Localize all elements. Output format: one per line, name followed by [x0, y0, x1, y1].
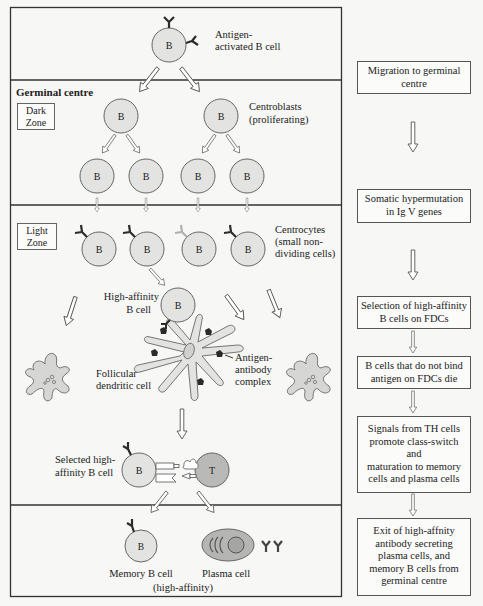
- step-text: Migration to germinal: [361, 65, 467, 78]
- germinal-centre-label: Germinal centre: [16, 86, 93, 98]
- centrocyte-cell: B: [123, 225, 164, 266]
- high-affinity-caption: (high-affinity): [153, 582, 213, 594]
- co-stimulatory-receptor-icon: [156, 463, 179, 482]
- selected-caption-1: Selected high-: [55, 454, 116, 465]
- light-zone-label-2: Zone: [27, 237, 48, 248]
- arrow-icon: [199, 133, 218, 155]
- dividing-b-cell: B: [129, 159, 163, 193]
- svg-text:B: B: [196, 244, 203, 255]
- step-arrow-icon: [408, 250, 418, 280]
- step-arrow-icon: [409, 391, 416, 413]
- step-text: in Ig V genes: [361, 206, 467, 219]
- arrow-icon: [224, 133, 243, 155]
- step-box-somatic-hypermutation: Somatic hypermutation in Ig V genes: [357, 189, 471, 223]
- selected-caption-2: affinity B cell: [55, 467, 113, 478]
- antibody-icon: [123, 225, 135, 237]
- plasma-cell: [202, 529, 254, 561]
- centrocyte-caption-1: Centrocytes: [275, 224, 325, 235]
- step-text: germinal centre: [361, 575, 467, 588]
- step-arrow-icon: [408, 122, 418, 152]
- fdc-caption-2: dendritic cell: [96, 380, 151, 391]
- svg-text:B: B: [118, 111, 125, 122]
- germinal-centre-diagram: B Antigen- activated B cell Germinal cen…: [0, 0, 483, 606]
- arrow-icon: [177, 409, 187, 439]
- step-text: B cells on FDCs: [361, 313, 467, 326]
- centrocyte-cell: B: [175, 225, 216, 266]
- arrow-icon: [264, 288, 285, 320]
- step-text: plasma cells, and: [361, 550, 467, 563]
- svg-text:B: B: [245, 244, 252, 255]
- centroblast-caption-2: (proliferating): [249, 114, 309, 126]
- step-text: Exit of high-affnity: [361, 525, 467, 538]
- step-box-migration: Migration to germinal centre: [357, 61, 471, 94]
- step-arrow-icon: [409, 331, 416, 353]
- high-affinity-caption-1: High-affinity: [104, 291, 160, 302]
- arrow-icon: [61, 295, 80, 327]
- antibody-icon: [164, 17, 174, 28]
- step-text: cells and plasma cells: [361, 473, 467, 486]
- step-text: maturation to memory: [361, 461, 467, 474]
- antibody-icon: [186, 36, 198, 45]
- apoptotic-cell-left: [26, 353, 70, 401]
- arrow-icon: [222, 292, 248, 322]
- antigen-activated-caption-2: activated B cell: [215, 41, 280, 52]
- centrocyte-cell: B: [224, 225, 265, 266]
- step-text: B cells that do not bind: [361, 360, 467, 373]
- centrocyte-caption-3: dividing cells): [275, 248, 336, 260]
- complex-caption-1: Antigen-: [235, 352, 273, 363]
- svg-text:B: B: [144, 244, 151, 255]
- complex-caption-2: antibody: [235, 364, 272, 375]
- secreted-antibodies-icon: [262, 541, 282, 552]
- complex-caption-3: complex: [235, 376, 272, 387]
- antigen-activated-caption-1: Antigen-: [215, 29, 253, 40]
- dividing-b-cell: B: [181, 159, 215, 193]
- antibody-icon: [127, 519, 134, 532]
- plasma-cell-caption: Plasma cell: [202, 568, 250, 579]
- t-helper-cell: T: [182, 453, 229, 487]
- dark-zone-label-1: Dark: [26, 105, 46, 116]
- cytokine-icon: [182, 459, 198, 479]
- svg-text:B: B: [244, 171, 251, 182]
- svg-text:B: B: [143, 171, 150, 182]
- centrocyte-cell: B: [75, 225, 116, 266]
- step-text: promote class-switch and: [361, 436, 467, 461]
- svg-text:B: B: [96, 244, 103, 255]
- dividing-b-cell: B: [230, 159, 264, 193]
- antibody-icon: [75, 225, 87, 237]
- step-text: antigen on FDCs die: [361, 373, 467, 386]
- svg-text:B: B: [94, 171, 101, 182]
- centrocyte-caption-2: (small non-: [275, 236, 324, 248]
- high-affinity-caption-2: B cell: [126, 304, 151, 315]
- arrow-icon: [148, 489, 171, 515]
- high-affinity-b-cell: B: [161, 288, 195, 329]
- centroblast-cell: B: [204, 99, 238, 133]
- memory-b-cell: B: [125, 519, 157, 562]
- step-text: Selection of high-affinity: [361, 300, 467, 313]
- dividing-b-cell: B: [80, 159, 114, 193]
- step-box-selection: Selection of high-affinity B cells on FD…: [357, 296, 471, 329]
- svg-text:B: B: [195, 171, 202, 182]
- svg-text:B: B: [218, 111, 225, 122]
- step-text: antibody secreting: [361, 538, 467, 551]
- step-box-cell-death: B cells that do not bind antigen on FDCs…: [357, 356, 471, 389]
- antibody-icon: [123, 442, 131, 455]
- step-box-exit: Exit of high-affnity antibody secreting …: [357, 518, 471, 596]
- memory-b-cell-caption: Memory B cell: [109, 568, 173, 579]
- step-text: centre: [361, 78, 467, 91]
- svg-text:B: B: [138, 542, 144, 552]
- step-arrow-icon: [409, 494, 416, 516]
- centroblast-cell: B: [104, 99, 138, 133]
- apoptotic-cell-right: [287, 353, 331, 401]
- antibody-light-icon: [175, 225, 187, 237]
- svg-text:B: B: [136, 465, 143, 476]
- selected-b-cell: B: [122, 442, 179, 487]
- arrow-icon: [147, 267, 167, 288]
- antigen-activated-b-cell: B: [152, 17, 198, 62]
- centroblast-caption-1: Centroblasts: [249, 101, 302, 112]
- step-text: Signals from TH cells: [361, 423, 467, 436]
- arrow-icon: [124, 133, 143, 155]
- svg-text:B: B: [175, 300, 182, 311]
- fdc-caption-1: Follicular: [96, 368, 137, 379]
- dark-zone-label-2: Zone: [26, 117, 47, 128]
- antibody-icon: [224, 225, 236, 237]
